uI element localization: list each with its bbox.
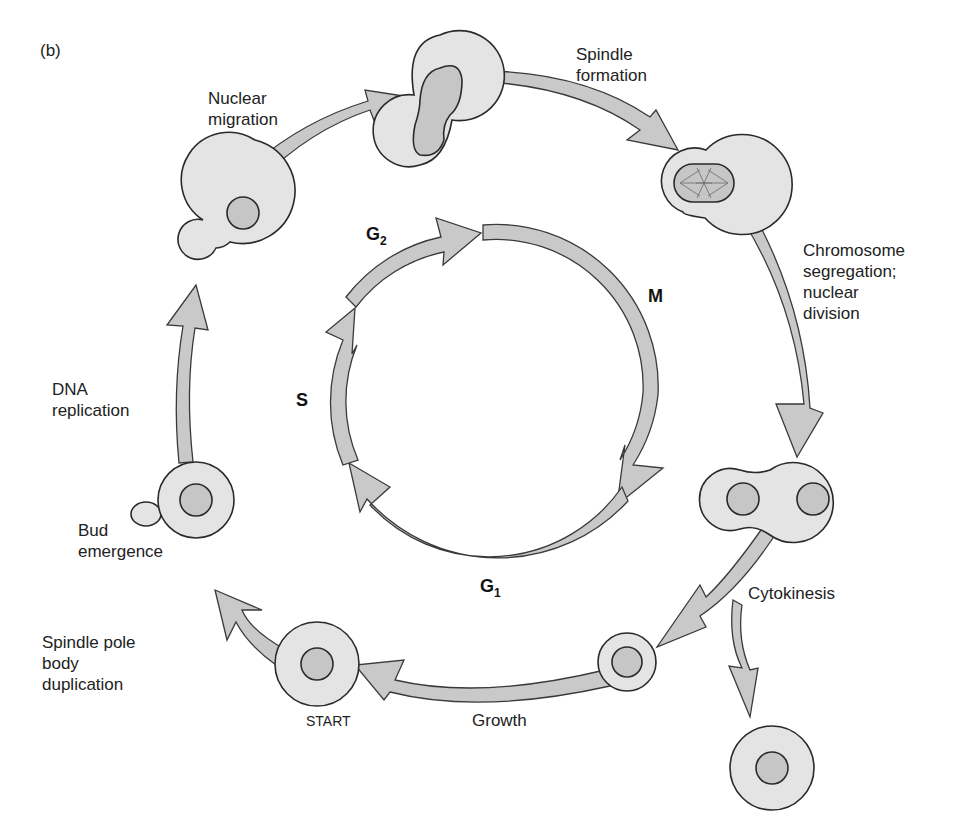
arrow-dna-replication xyxy=(167,285,208,463)
label-chromosome-segregation: Chromosome segregation; nuclear division xyxy=(803,240,905,324)
arrow-cytokinesis-right xyxy=(729,600,758,717)
inner-arrow-g1 xyxy=(349,463,628,558)
label-growth: Growth xyxy=(472,710,527,731)
label-start: START xyxy=(306,713,351,729)
label-cytokinesis: Cytokinesis xyxy=(748,583,835,604)
label-bud-emergence: Bud emergence xyxy=(78,520,163,562)
cell-nuclear-migration xyxy=(373,31,504,167)
cell-spindle xyxy=(661,135,792,235)
label-dna-replication: DNA replication xyxy=(52,379,130,421)
arrow-start-to-bud xyxy=(215,590,286,665)
cell-small-daughter xyxy=(598,633,656,691)
phase-label-s: S xyxy=(296,390,308,411)
inner-cycle xyxy=(326,218,663,558)
label-spindle-pole-body-duplication: Spindle pole body duplication xyxy=(42,632,136,695)
phase-label-g2: G2 xyxy=(366,224,387,248)
cell-start xyxy=(275,622,359,706)
panel-label: (b) xyxy=(40,40,61,61)
cell-detached-daughter xyxy=(730,726,814,810)
cell-binucleate xyxy=(699,463,833,543)
arrow-growth xyxy=(355,660,610,702)
cell-budded xyxy=(178,132,295,259)
phase-label-g1: G1 xyxy=(480,576,501,600)
inner-arrow-s xyxy=(326,308,358,465)
phase-label-m: M xyxy=(648,286,663,307)
label-spindle-formation: Spindle formation xyxy=(576,44,647,86)
inner-arrow-m xyxy=(483,224,663,505)
label-nuclear-migration: Nuclear migration xyxy=(208,88,278,130)
